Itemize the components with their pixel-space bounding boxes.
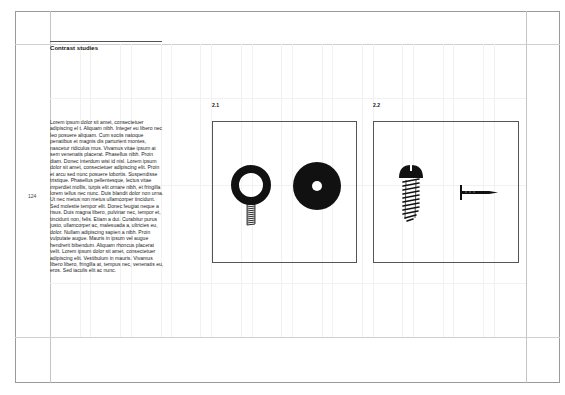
body-text: Lorem ipsum dolor sit amet, consectetuer…: [50, 119, 164, 274]
right-margin-line: [526, 11, 527, 383]
bottom-margin-line: [15, 337, 560, 338]
figure-label-2-1: 2.1: [212, 102, 219, 108]
washer-icon: [292, 161, 342, 211]
section-title: Contrast studies: [50, 45, 98, 51]
figure-label-2-2: 2.2: [373, 102, 380, 108]
page-number: 124: [28, 193, 36, 199]
heading-rule: [50, 41, 162, 42]
nail-icon: [459, 184, 501, 202]
screw-icon: [398, 163, 424, 225]
eye-bolt-icon: [228, 163, 274, 229]
